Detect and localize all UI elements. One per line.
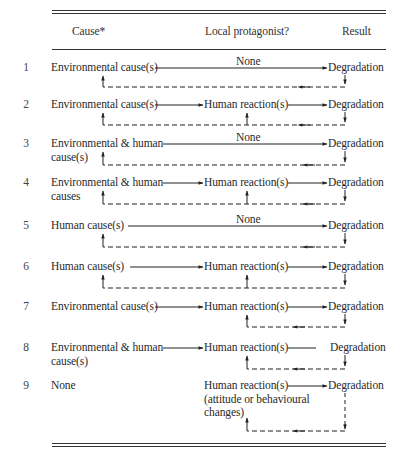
row-4-arrows	[103, 183, 345, 204]
row-1-arrows	[103, 68, 345, 87]
row-8-arrows	[163, 348, 345, 369]
row-5-arrows	[103, 226, 345, 247]
row-6-arrows	[103, 267, 345, 288]
row-2-arrows	[103, 105, 345, 125]
row-7-arrows	[155, 307, 345, 327]
row-9-arrows	[247, 386, 345, 431]
row-3-arrows	[103, 144, 345, 165]
flow-arrows	[0, 0, 406, 463]
